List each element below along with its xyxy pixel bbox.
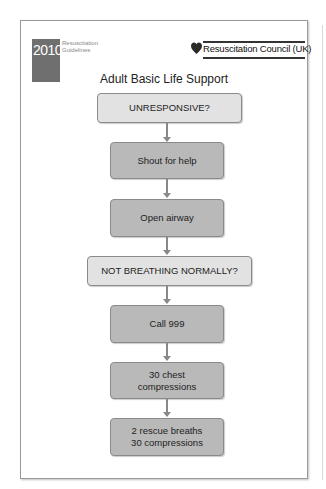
step-label-line2: 30 compressions: [131, 437, 203, 449]
badge-subtitle-line1: Resuscitation: [62, 40, 98, 47]
step-label-line2: compressions: [138, 381, 197, 393]
logo-text: Resuscitation Council (UK): [203, 41, 305, 59]
page-edge-rule: [322, 25, 323, 480]
badge-subtitle: Resuscitation Guidelines: [62, 40, 98, 54]
arrow-down-icon: [166, 399, 168, 413]
arrow-down-icon: [166, 343, 168, 357]
arrow-down-icon: [166, 286, 168, 300]
page-title: Adult Basic Life Support: [20, 72, 308, 86]
step-label: Shout for help: [137, 155, 196, 167]
step-30-chest-compressions: 30 chest compressions: [110, 362, 224, 399]
badge-subtitle-line2: Guidelines: [62, 47, 98, 54]
step-label: Call 999: [150, 318, 185, 330]
step-label-line1: 30 chest: [149, 369, 185, 381]
arrow-down-icon: [166, 123, 168, 138]
resuscitation-council-logo: Resuscitation Council (UK): [190, 40, 308, 58]
badge-year-text: 2010: [32, 42, 60, 58]
step-label: NOT BREATHING NORMALLY?: [101, 265, 238, 277]
arrow-down-icon: [166, 237, 168, 251]
step-shout-for-help: Shout for help: [110, 142, 224, 179]
step-call-999: Call 999: [110, 305, 224, 343]
arrow-down-icon: [166, 179, 168, 194]
step-rescue-breaths-compressions: 2 rescue breaths 30 compressions: [110, 418, 224, 456]
step-label-line1: 2 rescue breaths: [132, 425, 203, 437]
heart-icon: [191, 42, 202, 55]
step-not-breathing-normally: NOT BREATHING NORMALLY?: [87, 256, 252, 286]
step-label: Open airway: [140, 212, 193, 224]
step-unresponsive: UNRESPONSIVE?: [97, 93, 242, 123]
step-open-airway: Open airway: [110, 199, 224, 237]
step-label: UNRESPONSIVE?: [129, 102, 210, 114]
